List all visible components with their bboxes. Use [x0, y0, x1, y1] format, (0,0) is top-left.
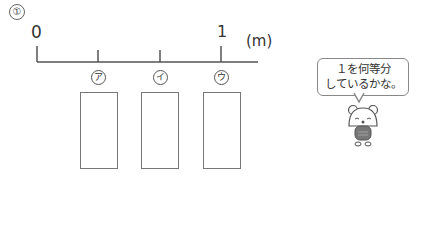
- point-label-u: ウ: [214, 70, 229, 85]
- bear-character-icon: [346, 104, 380, 152]
- bubble-line-1: １を何等分: [318, 62, 408, 77]
- answer-box-u[interactable]: [203, 92, 241, 169]
- speech-bubble: １を何等分 しているかな。: [317, 58, 409, 96]
- bubble-tail: [352, 92, 366, 104]
- answer-box-a[interactable]: [80, 92, 118, 169]
- point-label-a: ア: [91, 70, 106, 85]
- point-label-i: イ: [153, 70, 168, 85]
- bubble-line-2: しているかな。: [318, 77, 408, 92]
- answer-box-i[interactable]: [141, 92, 179, 169]
